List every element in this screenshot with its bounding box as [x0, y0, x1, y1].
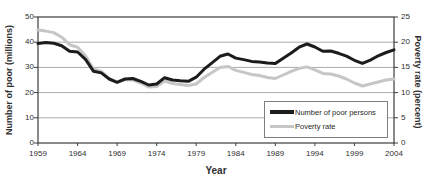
x-tick-label: 1994: [300, 149, 330, 159]
poverty-chart-figure: Figure 3-1. Number of poor persons and p…: [0, 0, 430, 184]
y-axis-left-title: Number of poor (millions): [3, 5, 15, 155]
legend-line-swatch-black: [270, 110, 294, 114]
x-tick-label: 1999: [339, 149, 369, 159]
legend-item-number-of-poor: Number of poor persons: [265, 108, 387, 117]
legend-line-swatch-gray: [270, 125, 294, 128]
x-tick-label: 1964: [63, 149, 93, 159]
x-axis-title: Year: [196, 165, 236, 176]
x-tick-label: 1984: [221, 149, 251, 159]
legend-label: Number of poor persons: [295, 108, 376, 117]
legend: Number of poor persons Poverty rate: [264, 101, 388, 138]
y-axis-right-title: Poverty rate (percent): [412, 7, 424, 157]
x-tick-label: 1959: [23, 149, 53, 159]
legend-item-poverty-rate: Poverty rate: [265, 122, 387, 131]
x-tick-label: 1969: [102, 149, 132, 159]
legend-label: Poverty rate: [295, 122, 335, 131]
x-tick-label: 1989: [260, 149, 290, 159]
x-tick-label: 1974: [142, 149, 172, 159]
x-tick-label: 2004: [379, 149, 409, 159]
x-tick-label: 1979: [181, 149, 211, 159]
